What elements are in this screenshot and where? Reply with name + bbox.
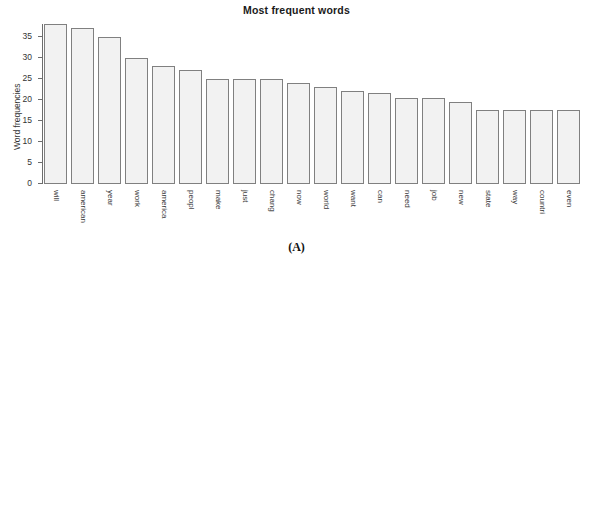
bar-item: america <box>150 24 177 184</box>
x-tick-label: job <box>429 190 438 201</box>
x-tick-label: america <box>159 190 168 218</box>
x-tick-label: even <box>564 190 573 207</box>
bar <box>206 79 229 184</box>
x-tick-label: way <box>510 190 519 204</box>
chart-a-title: Most frequent words <box>0 4 593 16</box>
bar <box>98 37 121 184</box>
bar <box>71 28 94 184</box>
bar <box>125 58 148 184</box>
x-tick-label: new <box>456 190 465 205</box>
bar-item: want <box>339 24 366 184</box>
chart-panel-a: Most frequent words Word frequencies 051… <box>0 0 593 265</box>
bar-item: state <box>474 24 501 184</box>
bar <box>260 79 283 184</box>
x-tick-label: need <box>402 190 411 208</box>
figure-container: Most frequent words Word frequencies 051… <box>0 0 593 531</box>
bar <box>287 83 310 184</box>
chart-a-y-tick-label: 5 <box>27 157 32 167</box>
x-tick-label: countri <box>537 190 546 214</box>
bar-item: even <box>555 24 582 184</box>
chart-panel-b: Most frequent words Word frequencies 051… <box>0 265 593 531</box>
x-tick-label: work <box>132 190 141 207</box>
bar <box>530 110 553 184</box>
bar-item: countri <box>528 24 555 184</box>
bar-item: just <box>231 24 258 184</box>
bar-item: now <box>285 24 312 184</box>
bar <box>341 91 364 184</box>
bar <box>152 66 175 184</box>
bar <box>449 102 472 184</box>
chart-a-y-tick-label: 20 <box>23 94 32 104</box>
chart-a-y-axis-label: Word frequencies <box>12 84 22 150</box>
x-tick-label: make <box>213 190 222 210</box>
bar <box>233 79 256 184</box>
bar-item: make <box>204 24 231 184</box>
x-tick-label: want <box>348 190 357 207</box>
bar <box>476 110 499 184</box>
bar-item: year <box>96 24 123 184</box>
bar-item: way <box>501 24 528 184</box>
bar <box>557 110 580 184</box>
x-tick-label: can <box>375 190 384 203</box>
x-tick-label: state <box>483 190 492 207</box>
x-tick-label: now <box>294 190 303 205</box>
x-tick-label: just <box>240 190 249 202</box>
bar <box>422 98 445 184</box>
chart-a-y-tick-label: 15 <box>23 115 32 125</box>
bar-item: world <box>312 24 339 184</box>
bar-item: chang <box>258 24 285 184</box>
bar-item: job <box>420 24 447 184</box>
x-tick-label: will <box>51 190 60 201</box>
bar-item: can <box>366 24 393 184</box>
x-tick-label: peopl <box>186 190 195 210</box>
chart-a-y-tick-label: 30 <box>23 52 32 62</box>
bar-item: american <box>69 24 96 184</box>
bar-item: peopl <box>177 24 204 184</box>
chart-a-plot-area: 05101520253035 willamericanyearworkameri… <box>42 24 582 184</box>
bar <box>395 98 418 184</box>
chart-a-y-tick-label: 10 <box>23 136 32 146</box>
chart-a-y-tick-label: 35 <box>23 31 32 41</box>
x-tick-label: american <box>78 190 87 223</box>
bar <box>44 24 67 184</box>
bar <box>179 70 202 184</box>
bar-item: work <box>123 24 150 184</box>
bar-item: new <box>447 24 474 184</box>
bar-item: need <box>393 24 420 184</box>
chart-a-y-tick-label: 25 <box>23 73 32 83</box>
x-tick-label: year <box>105 190 114 206</box>
bar <box>314 87 337 184</box>
bar <box>368 93 391 184</box>
bar <box>503 110 526 184</box>
chart-a-bars: willamericanyearworkamericapeoplmakejust… <box>42 24 582 184</box>
chart-a-y-tick-label: 0 <box>27 178 32 188</box>
x-tick-label: chang <box>267 190 276 212</box>
panel-a-letter: (A) <box>0 240 593 255</box>
bar-item: will <box>42 24 69 184</box>
x-tick-label: world <box>321 190 330 209</box>
